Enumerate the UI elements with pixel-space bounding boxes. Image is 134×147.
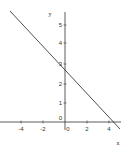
chart: -4 -2 0 2 4 0 1 2 3 4 5 y x xyxy=(0,0,134,147)
y-tick-label: 1 xyxy=(59,100,63,106)
x-tick-label: 0 xyxy=(66,126,70,132)
x-tick-label: 2 xyxy=(85,126,89,132)
y-tick-label: 4 xyxy=(59,40,63,46)
y-tick-label: 5 xyxy=(59,22,63,28)
x-tick-label: -2 xyxy=(40,126,46,132)
y-tick-label: 0 xyxy=(59,115,63,121)
y-axis-label: y xyxy=(49,11,52,17)
x-tick-label: 4 xyxy=(107,126,111,132)
y-tick-label: 2 xyxy=(59,81,63,87)
x-axis-label: x xyxy=(117,140,120,146)
x-tick-label: -4 xyxy=(18,126,24,132)
